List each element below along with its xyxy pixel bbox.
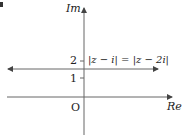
re-axis-label: Re — [167, 101, 182, 112]
tick-label-1: 1 — [70, 73, 77, 84]
tick-label-2: 2 — [70, 55, 77, 66]
im-axis-label: Im — [66, 3, 81, 14]
argand-diagram — [0, 0, 182, 139]
locus-equation: |z − i| = |z − 2i| — [88, 55, 169, 65]
origin-label: O — [71, 102, 80, 113]
